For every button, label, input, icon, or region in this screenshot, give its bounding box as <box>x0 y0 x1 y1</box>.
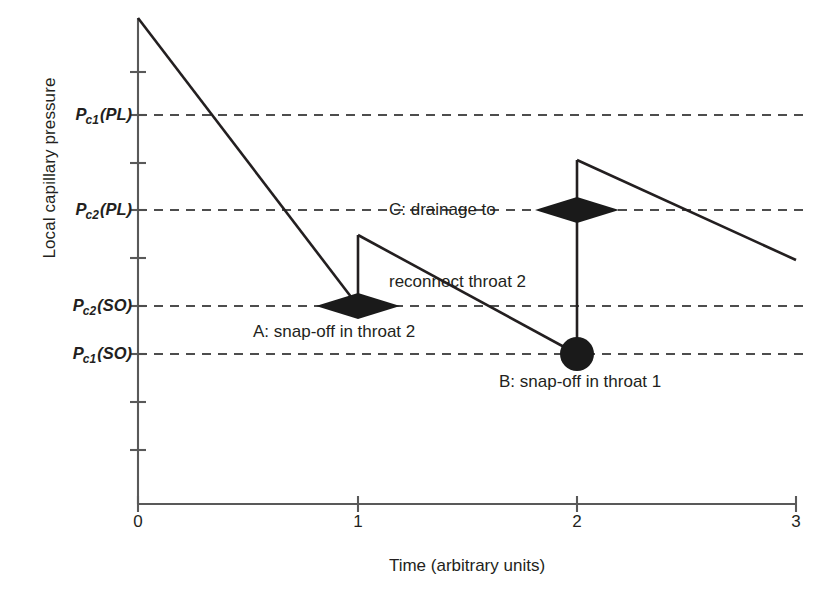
x-tick-label-1: 1 <box>338 512 378 532</box>
marker-a-diamond <box>316 293 400 319</box>
x-tick-label-0: 0 <box>118 512 158 532</box>
y-tick-label-pc2pl: Pc2(PL) <box>76 200 132 219</box>
x-tick-label-2: 2 <box>557 512 597 532</box>
x-axis-title: Time (arbitrary units) <box>138 556 796 576</box>
annotation-c-line-2: reconnect throat 2 <box>389 270 526 294</box>
y-axis-title: Local capillary pressure <box>40 0 60 338</box>
y-tick-label-pc2so: Pc2(SO) <box>73 296 132 315</box>
capillary-pressure-chart: Local capillary pressure Pc1(PL) Pc2(PL)… <box>0 0 813 595</box>
y-tick-label-pc1pl: Pc1(PL) <box>76 105 132 124</box>
annotation-c-line-1: C: drainage to <box>389 198 526 222</box>
marker-c-diamond <box>535 197 619 223</box>
annotation-b: B: snap-off in throat 1 <box>499 370 661 394</box>
annotation-c: C: drainage to reconnect throat 2 <box>389 150 526 342</box>
marker-b-circle <box>560 337 594 371</box>
x-tick-label-3: 3 <box>776 512 813 532</box>
y-tick-label-pc1so: Pc1(SO) <box>73 344 132 363</box>
segment-drainage-1 <box>138 18 358 306</box>
